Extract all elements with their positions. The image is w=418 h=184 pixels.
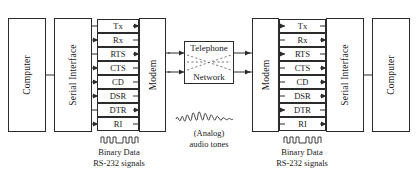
signal-arrows-right [279,26,326,124]
signal-arrows-left [92,26,139,124]
diagram-vector-layer [0,0,418,184]
modem-network-diagram: Computer Serial Interface Modem Modem Se… [0,0,418,184]
binary-waveform-left-icon [101,137,138,143]
binary-waveform-right-icon [284,137,321,143]
modem-network-arrows-left [166,53,184,72]
analog-waveform-icon [176,112,233,121]
modem-network-arrows-right [234,53,252,72]
network-crossing-lines [187,55,231,70]
